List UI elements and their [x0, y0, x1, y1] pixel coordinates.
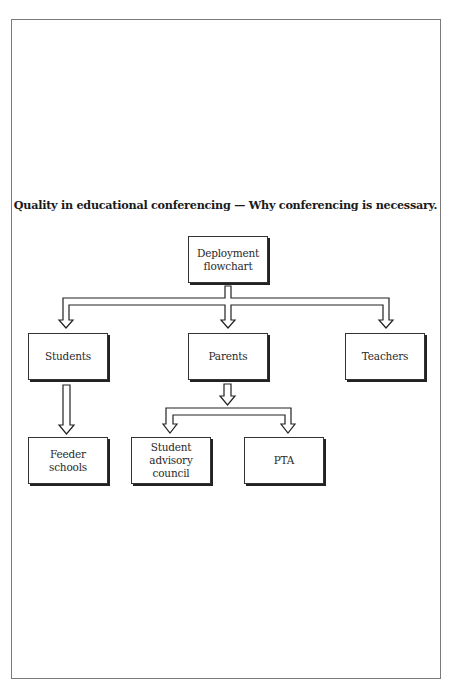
node-deployment-flowchart: Deployment flowchart: [188, 236, 268, 283]
node-teachers: Teachers: [345, 333, 425, 380]
node-parents: Parents: [188, 333, 268, 380]
node-students: Students: [28, 333, 108, 380]
arrow-students-to-feeder: [59, 385, 74, 434]
node-student-advisory-council: Student advisory council: [131, 437, 211, 484]
node-pta: PTA: [244, 437, 324, 484]
arrow-parents-down: [220, 384, 235, 405]
node-feeder-schools: Feeder schools: [28, 437, 108, 484]
arrow-root-to-children: [59, 286, 393, 328]
arrow-parents-to-children: [163, 408, 295, 433]
